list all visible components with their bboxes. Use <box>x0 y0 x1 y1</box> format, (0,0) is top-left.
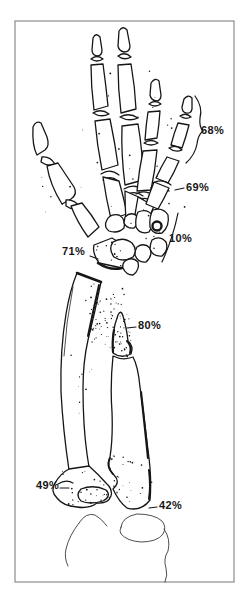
label-distal-ulna: 80% <box>138 320 161 331</box>
label-little-finger-phalanges: 68% <box>201 125 224 136</box>
label-olecranon: 42% <box>159 500 182 511</box>
hand-skeleton-illustration <box>0 0 251 595</box>
hamate-hook <box>153 222 162 231</box>
label-distal-radius: 71% <box>62 246 85 257</box>
label-finger-base: 69% <box>186 182 209 193</box>
label-carpal-bones: 10% <box>169 233 192 244</box>
figure-page: 68% 69% 10% 71% 80% 49% 42% <box>0 0 251 595</box>
label-radial-head: 49% <box>36 480 59 491</box>
